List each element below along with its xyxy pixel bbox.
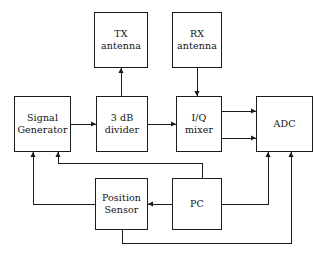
wire-position-sensor-to-signal-generator: [30, 152, 95, 204]
tx-antenna-label-line1: TX: [114, 28, 127, 40]
divider-label-line2: divider: [105, 124, 139, 136]
wire-divider-to-iq-mixer: [148, 121, 176, 126]
wire-iq-mixer-to-adc-channel-i: [222, 108, 256, 113]
block-diagram: TX antenna RX antenna Signal Generator 3…: [0, 0, 318, 258]
signal-generator-label-line1: Signal: [27, 112, 58, 124]
position-sensor-label-line2: Sensor: [105, 204, 139, 216]
rx-antenna-block[interactable]: RX antenna: [172, 12, 222, 68]
rx-antenna-label-line2: antenna: [177, 40, 217, 52]
tx-antenna-label-line2: antenna: [101, 40, 141, 52]
wire-signal-generator-to-divider: [71, 121, 96, 126]
pc-block[interactable]: PC: [172, 178, 222, 230]
rx-antenna-label-line1: RX: [190, 28, 204, 40]
wire-divider-to-tx-antenna: [118, 68, 123, 96]
position-sensor-label-line1: Position: [102, 192, 141, 204]
wire-rx-antenna-to-iq-mixer: [194, 68, 199, 96]
iq-mixer-label-line1: I/Q: [191, 112, 206, 124]
wire-pc-to-adc: [222, 152, 271, 204]
three-db-divider-block[interactable]: 3 dB divider: [96, 96, 148, 152]
wire-pc-to-signal-generator: [55, 152, 202, 178]
wire-iq-mixer-to-adc-channel-q: [222, 135, 256, 140]
position-sensor-block[interactable]: Position Sensor: [95, 178, 148, 230]
signal-generator-block[interactable]: Signal Generator: [14, 96, 71, 152]
divider-label-line1: 3 dB: [111, 112, 134, 124]
pc-label-line1: PC: [190, 198, 204, 210]
iq-mixer-block[interactable]: I/Q mixer: [176, 96, 222, 152]
tx-antenna-block[interactable]: TX antenna: [94, 12, 148, 68]
adc-block[interactable]: ADC: [256, 96, 313, 152]
iq-mixer-label-line2: mixer: [185, 124, 213, 136]
wire-pc-to-position-sensor: [148, 201, 172, 206]
signal-generator-label-line2: Generator: [17, 124, 67, 136]
adc-label-line1: ADC: [273, 118, 295, 130]
